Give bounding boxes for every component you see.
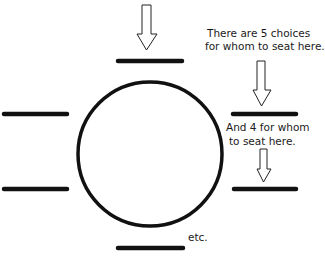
round-table bbox=[78, 82, 222, 226]
annotation-first-choice-line1: There are 5 choices bbox=[207, 27, 310, 40]
annotation-second-choice-line1: And 4 for whom bbox=[226, 121, 310, 134]
annotation-etc: etc. bbox=[188, 231, 208, 244]
annotation-first-choice-line2: for whom to seat here. bbox=[205, 40, 325, 53]
down-arrow-icon-right-upper bbox=[253, 61, 271, 106]
down-arrow-icon-top bbox=[137, 5, 157, 50]
annotation-second-choice-line2: to seat here. bbox=[229, 135, 296, 148]
down-arrow-icon-right-lower bbox=[257, 149, 271, 182]
